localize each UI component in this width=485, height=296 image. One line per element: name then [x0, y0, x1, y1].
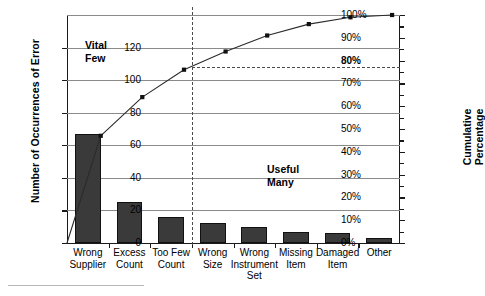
y-axis-right-minor-tick	[400, 26, 404, 27]
y-axis-right-tick	[400, 106, 405, 107]
useful-many-line-1: Useful	[267, 163, 299, 176]
y-axis-right-label: 90%	[341, 33, 361, 43]
y-axis-right-minor-tick	[400, 140, 404, 141]
category-label-line: Set	[230, 270, 280, 282]
line-marker	[224, 49, 228, 53]
y-axis-right-minor-tick	[400, 95, 404, 96]
y-axis-right-label: 10%	[341, 215, 361, 225]
y-axis-right-tick	[400, 129, 405, 130]
y-axis-left-tick	[62, 243, 67, 244]
y-axis-left-label: 60	[101, 140, 141, 150]
y-axis-right-minor-tick	[400, 72, 404, 73]
y-axis-left-title: Number of Occurrences of Error	[29, 6, 41, 236]
y-axis-right-tick	[400, 243, 405, 244]
line-marker	[182, 68, 186, 72]
y-axis-right-label: 60%	[341, 101, 361, 111]
line-marker	[390, 13, 394, 17]
y-axis-right-minor-tick	[400, 186, 404, 187]
y-axis-right-title: Cumulative Percentage	[461, 62, 485, 212]
y-axis-right-label: 80%	[341, 56, 361, 66]
y-axis-right-minor-tick	[400, 49, 404, 50]
y-axis-right-label: 100%	[341, 10, 367, 20]
y-axis-right-title-line-1: Cumulative	[461, 62, 473, 212]
line-marker	[307, 22, 311, 26]
useful-many-annotation: Useful Many	[267, 163, 299, 189]
y-axis-left-label: 40	[101, 173, 141, 183]
y-axis-right-label: 30%	[341, 170, 361, 180]
y-axis-left-label: 100	[101, 75, 141, 85]
y-axis-right-minor-tick	[400, 118, 404, 119]
footer-rule	[8, 285, 144, 286]
line-marker	[99, 134, 103, 138]
y-axis-right-minor-tick	[400, 163, 404, 164]
y-axis-right-tick	[400, 38, 405, 39]
y-axis-right-tick	[400, 175, 405, 176]
x-axis-category-label: Other	[354, 247, 404, 259]
line-marker	[140, 95, 144, 99]
y-axis-right-label: 20%	[341, 192, 361, 202]
y-axis-right-label: 40%	[341, 147, 361, 157]
y-axis-left-label: 80	[101, 108, 141, 118]
useful-many-line-2: Many	[267, 176, 299, 189]
y-axis-right-tick	[400, 152, 405, 153]
y-axis-right-tick	[400, 61, 405, 62]
category-label-line: Item	[313, 259, 363, 271]
y-axis-right-tick	[400, 220, 405, 221]
y-axis-right-tick	[400, 197, 405, 198]
y-axis-right-tick	[400, 15, 405, 16]
y-axis-right-minor-tick	[400, 232, 404, 233]
y-axis-right-label: 70%	[341, 78, 361, 88]
y-axis-right-tick	[400, 83, 405, 84]
category-label-line: Other	[354, 247, 404, 259]
y-axis-left-label: 20	[101, 205, 141, 215]
y-axis-left-label: 120	[101, 43, 141, 53]
y-axis-right-title-line-2: Percentage	[473, 62, 485, 212]
y-axis-right-label: 50%	[341, 124, 361, 134]
line-marker	[265, 33, 269, 37]
vital-few-line-2: Few	[85, 52, 107, 65]
y-axis-right-minor-tick	[400, 209, 404, 210]
